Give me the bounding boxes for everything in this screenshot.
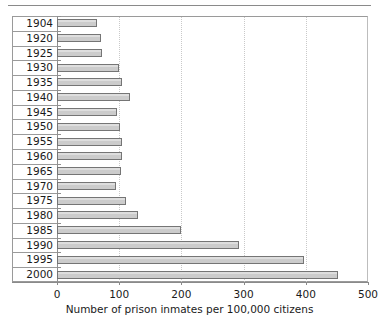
category-tick	[57, 193, 61, 194]
year-axis-label: 1920	[12, 31, 53, 46]
bar-1975	[57, 197, 126, 205]
table-row: 1975	[12, 193, 368, 208]
bar-1955	[57, 138, 122, 146]
x-tick-300	[244, 282, 245, 285]
bar-1980	[57, 211, 138, 219]
category-tick	[57, 119, 61, 120]
category-tick	[57, 60, 61, 61]
year-axis-label: 1935	[12, 75, 53, 90]
bar-1920	[57, 34, 101, 42]
x-tick-label-200: 200	[161, 288, 201, 300]
x-axis-label: Number of prison inmates per 100,000 cit…	[0, 303, 379, 315]
prison-inmates-bar-chart: 1904192019251930193519401945195019551960…	[0, 0, 379, 332]
x-tick-500	[368, 282, 369, 285]
table-row: 1940	[12, 90, 368, 105]
category-tick	[57, 31, 61, 32]
table-row: 1945	[12, 105, 368, 120]
x-tick-0	[57, 282, 58, 285]
year-axis-label: 1970	[12, 179, 53, 194]
table-row: 1950	[12, 119, 368, 134]
bar-2000	[57, 271, 338, 279]
bar-1945	[57, 108, 117, 116]
table-row: 1930	[12, 60, 368, 75]
x-tick-label-100: 100	[99, 288, 139, 300]
x-tick-400	[306, 282, 307, 285]
bar-1940	[57, 93, 130, 101]
table-row: 1935	[12, 75, 368, 90]
bar-1935	[57, 78, 122, 86]
top-divider-rule	[8, 5, 371, 6]
year-axis-label: 1975	[12, 193, 53, 208]
table-row: 1985	[12, 223, 368, 238]
year-axis-label: 1930	[12, 60, 53, 75]
table-row: 1980	[12, 208, 368, 223]
year-axis-label: 1965	[12, 164, 53, 179]
table-row: 1970	[12, 179, 368, 194]
x-tick-label-400: 400	[286, 288, 326, 300]
bar-1995	[57, 256, 304, 264]
category-tick	[57, 179, 61, 180]
year-axis-label: 1904	[12, 16, 53, 31]
year-axis-label: 1980	[12, 208, 53, 223]
x-tick-label-500: 500	[348, 288, 379, 300]
table-row: 1925	[12, 46, 368, 61]
table-row: 1965	[12, 164, 368, 179]
year-axis-label: 1950	[12, 119, 53, 134]
x-axis-line	[12, 282, 368, 283]
year-axis-label: 1955	[12, 134, 53, 149]
bar-1960	[57, 152, 122, 160]
table-row: 1904	[12, 16, 368, 31]
year-axis-label: 1940	[12, 90, 53, 105]
table-row: 1995	[12, 252, 368, 267]
category-tick	[57, 238, 61, 239]
bar-1985	[57, 226, 181, 234]
bar-1904	[57, 19, 97, 27]
year-axis-label: 1960	[12, 149, 53, 164]
year-axis-label: 1925	[12, 46, 53, 61]
year-axis-label: 1995	[12, 252, 53, 267]
table-row: 1955	[12, 134, 368, 149]
category-tick	[57, 223, 61, 224]
bar-rows: 1904192019251930193519401945195019551960…	[12, 16, 368, 282]
bar-1965	[57, 167, 121, 175]
x-tick-200	[181, 282, 182, 285]
table-row: 1920	[12, 31, 368, 46]
bar-1925	[57, 49, 102, 57]
category-tick	[57, 16, 61, 17]
category-tick	[57, 267, 61, 268]
category-tick	[57, 75, 61, 76]
bar-1970	[57, 182, 116, 190]
table-row: 1960	[12, 149, 368, 164]
x-tick-label-0: 0	[37, 288, 77, 300]
bar-1930	[57, 64, 119, 72]
category-tick	[57, 164, 61, 165]
x-tick-label-300: 300	[224, 288, 264, 300]
category-tick	[57, 90, 61, 91]
bar-1950	[57, 123, 120, 131]
year-axis-label: 1990	[12, 238, 53, 253]
table-row: 1990	[12, 238, 368, 253]
year-axis-label: 2000	[12, 267, 53, 282]
category-tick	[57, 46, 61, 47]
category-tick	[57, 149, 61, 150]
year-axis-label: 1985	[12, 223, 53, 238]
category-tick	[57, 208, 61, 209]
x-tick-100	[119, 282, 120, 285]
table-row: 2000	[12, 267, 368, 282]
year-axis-label: 1945	[12, 105, 53, 120]
category-tick	[57, 134, 61, 135]
category-tick	[57, 105, 61, 106]
bar-1990	[57, 241, 239, 249]
category-tick	[57, 252, 61, 253]
